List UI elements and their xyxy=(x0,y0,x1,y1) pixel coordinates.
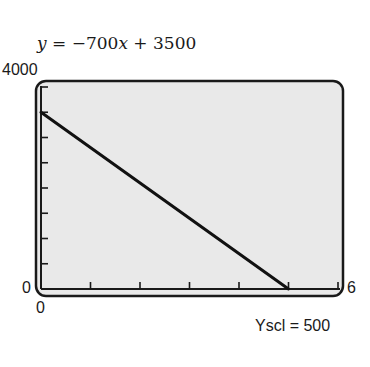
calculator-graph xyxy=(0,0,370,367)
screen-frame xyxy=(36,81,343,296)
